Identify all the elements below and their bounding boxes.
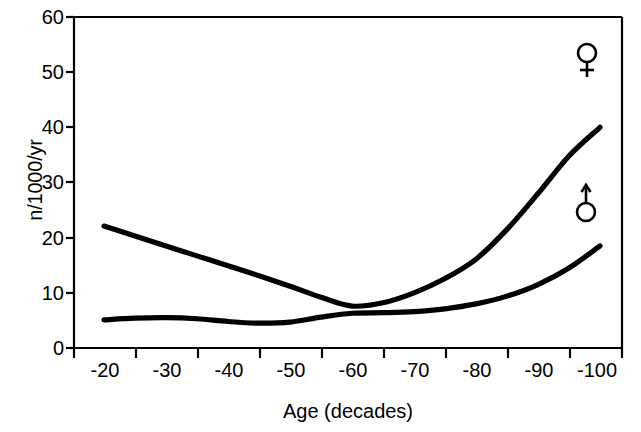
plot-area <box>0 0 641 432</box>
series-line-female <box>104 127 600 306</box>
chart-figure: n/1000/yr 60 50 40 30 20 10 0 -20 -30 -4… <box>0 0 641 432</box>
axis-frame <box>74 17 622 348</box>
x-tick-marks <box>74 348 622 358</box>
mars-symbol-icon <box>577 185 595 221</box>
series-line-male <box>104 246 600 323</box>
y-tick-marks <box>66 17 74 348</box>
venus-symbol-icon <box>578 44 596 77</box>
